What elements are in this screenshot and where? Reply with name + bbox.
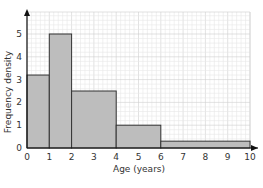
y-tick-label: 5 [16,29,22,39]
y-axis-arrow-icon [24,9,30,16]
x-tick-label: 9 [225,152,231,162]
x-tick-label: 5 [136,152,142,162]
x-tick-label: 8 [203,152,209,162]
y-axis-label: Frequency density [3,50,13,133]
y-tick-label: 3 [16,75,22,85]
x-tick-labels: 012345678910 [24,152,256,162]
y-tick-label: 1 [16,120,22,130]
x-tick-label: 7 [180,152,186,162]
histogram-bar [27,75,49,148]
y-tick-label: 0 [16,143,22,153]
x-axis-arrow-icon [251,145,258,151]
x-tick-label: 10 [244,152,256,162]
x-tick-label: 1 [46,152,52,162]
histogram-bar [161,141,250,148]
x-axis-label: Age (years) [113,164,165,174]
x-tick-label: 3 [91,152,97,162]
x-tick-label: 6 [158,152,164,162]
histogram-bar [72,91,117,148]
histogram-chart: 012345678910 012345 Age (years) Frequenc… [0,0,263,188]
y-tick-label: 2 [16,97,22,107]
y-tick-label: 4 [16,52,22,62]
x-tick-label: 2 [69,152,75,162]
x-tick-label: 0 [24,152,30,162]
x-tick-label: 4 [113,152,119,162]
histogram-bar [116,125,161,148]
y-tick-labels: 012345 [16,29,22,153]
histogram-bar [49,34,71,148]
